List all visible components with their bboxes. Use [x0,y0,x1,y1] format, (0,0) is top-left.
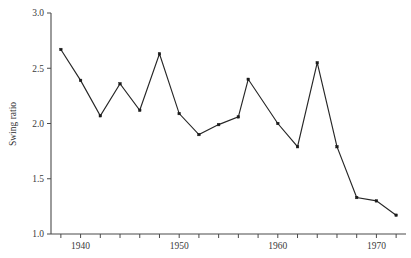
y-tick-label: 3.0 [32,8,44,18]
data-point-marker [395,214,398,217]
data-point-marker [247,78,250,81]
data-point-marker [60,48,63,51]
swing-ratio-series-line [61,49,396,215]
data-point-marker [178,112,181,115]
data-point-marker [336,145,339,148]
data-point-marker [217,123,220,126]
data-point-marker [237,116,240,119]
data-point-marker [79,79,82,82]
data-point-marker [355,196,358,199]
data-point-marker [138,109,141,112]
data-point-marker [198,133,201,136]
y-tick-label: 2.0 [32,119,44,129]
x-tick-label: 1960 [268,241,287,251]
y-axis-title: Swing ratio [8,102,18,146]
plot-axes [51,13,406,234]
y-axis-tick-labels: 1.01.52.02.53.0 [32,8,44,239]
data-point-marker [119,82,122,85]
data-point-marker [375,200,378,203]
data-point-marker [158,53,161,56]
x-tick-label: 1950 [170,241,189,251]
swing-ratio-series-markers [60,48,398,216]
data-point-marker [277,122,280,125]
swing-ratio-line-chart: 1.01.52.02.53.0 1940195019601970 Swing r… [0,0,411,258]
x-axis-tick-labels: 1940195019601970 [71,241,386,251]
x-axis-ticks [61,234,396,238]
x-tick-label: 1940 [71,241,90,251]
y-axis-ticks [47,13,51,234]
data-point-marker [316,61,319,64]
y-tick-label: 1.5 [32,174,44,184]
y-tick-label: 1.0 [32,229,44,239]
y-tick-label: 2.5 [32,64,44,74]
data-point-marker [296,145,299,148]
data-point-marker [99,114,102,117]
chart-page: 1.01.52.02.53.0 1940195019601970 Swing r… [0,0,411,258]
x-tick-label: 1970 [367,241,386,251]
